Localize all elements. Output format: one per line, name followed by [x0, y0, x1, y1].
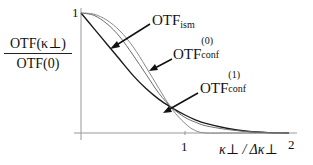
arrowhead-conf0	[149, 64, 158, 71]
y-label-numerator: OTF(κ⊥)	[4, 37, 72, 54]
y-tick-label-1: 1	[72, 6, 79, 19]
label-c0-sup: (0)	[201, 36, 213, 46]
arrow-ism	[115, 24, 150, 46]
label-otf-ism: OTFism	[152, 13, 195, 30]
arrows	[110, 24, 198, 113]
x-axis-label: κ⊥ / Δκ⊥	[219, 143, 278, 157]
arrowhead-ism	[110, 41, 120, 49]
label-c0-main: OTF	[173, 46, 201, 62]
y-axis-label: OTF(κ⊥) OTF(0)	[4, 37, 72, 71]
label-otf-conf0: OTF(0)conf	[173, 45, 227, 62]
y-label-denominator: OTF(0)	[4, 54, 72, 71]
label-c1-sub: conf	[228, 84, 246, 94]
arrow-conf0	[155, 59, 172, 68]
label-c1-sup: (1)	[228, 70, 240, 80]
label-c0-sub: conf	[201, 50, 219, 60]
arrow-conf1	[168, 93, 198, 110]
curve-otf-ism	[81, 13, 289, 133]
label-c1-main: OTF	[200, 80, 228, 96]
label-ism-sub: ism	[180, 19, 194, 30]
label-ism-main: OTF	[152, 12, 180, 28]
x-tick-label-2: 2	[288, 138, 295, 151]
label-otf-conf1: OTF(1)conf	[200, 79, 254, 96]
x-tick-label-1: 1	[181, 140, 188, 153]
curves	[81, 13, 289, 133]
